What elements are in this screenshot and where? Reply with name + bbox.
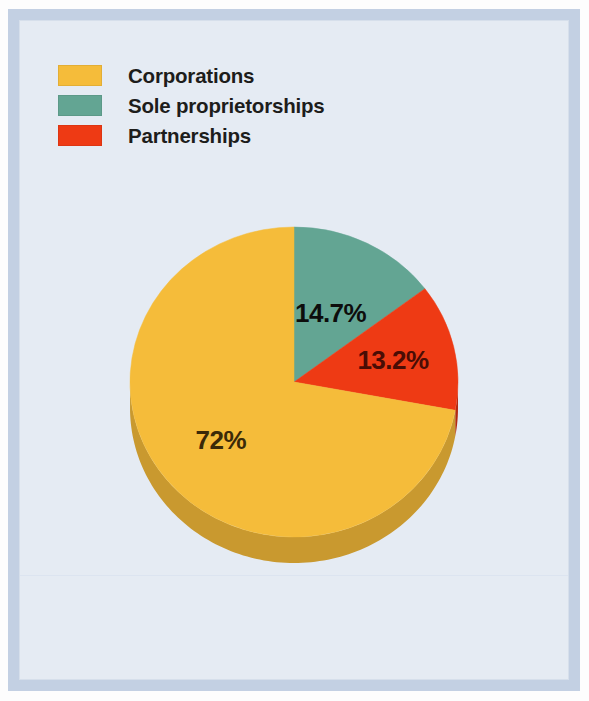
legend-label-partnerships: Partnerships [128, 124, 251, 148]
pie-label-sole-proprietorships: 14.7% [295, 298, 367, 328]
legend-label-sole-proprietorships: Sole proprietorships [128, 94, 324, 118]
legend-item-sole-proprietorships[interactable]: Sole proprietorships [58, 92, 388, 119]
legend-item-corporations[interactable]: Corporations [58, 62, 388, 89]
legend-swatch-partnerships [58, 125, 102, 146]
legend-swatch-corporations [58, 65, 102, 86]
pie-label-corporations: 72% [196, 425, 247, 455]
pie-slices-layer [130, 227, 458, 537]
figure-canvas: Corporations Sole proprietorships Partne… [0, 0, 589, 701]
pie-chart-svg: 14.7%13.2%72% [128, 180, 468, 600]
pie-chart: 14.7%13.2%72% [128, 180, 468, 600]
pie-label-partnerships: 13.2% [357, 345, 429, 375]
chart-legend: Corporations Sole proprietorships Partne… [58, 62, 388, 152]
legend-label-corporations: Corporations [128, 64, 254, 88]
legend-item-partnerships[interactable]: Partnerships [58, 122, 388, 149]
legend-swatch-sole-proprietorships [58, 95, 102, 116]
